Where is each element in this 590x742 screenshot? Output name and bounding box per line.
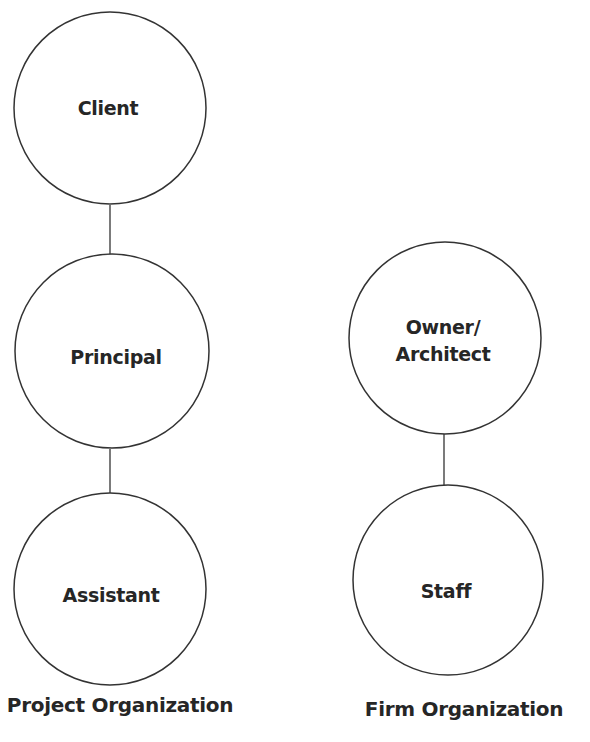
caption-project-organization: Project Organization: [7, 693, 233, 717]
node-principal-label: Principal: [70, 344, 161, 371]
node-staff-label: Staff: [421, 578, 472, 605]
node-owner-architect-label: Owner/ Architect: [396, 314, 491, 368]
node-owner-architect-line2: Architect: [396, 341, 491, 368]
node-client-label: Client: [78, 95, 139, 122]
node-owner-architect-line1: Owner/: [396, 314, 491, 341]
node-assistant-label: Assistant: [63, 582, 160, 609]
caption-firm-organization: Firm Organization: [365, 697, 563, 721]
